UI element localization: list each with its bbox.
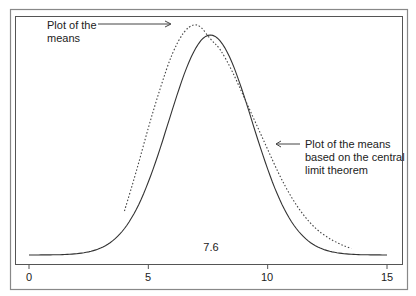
x-tick-5: 5	[145, 271, 151, 283]
x-tick-10: 10	[261, 271, 273, 283]
means-label-line2: means	[47, 32, 80, 44]
means-curve	[124, 25, 351, 249]
center-value-label: 7.6	[203, 241, 218, 253]
x-tick-0: 0	[26, 271, 32, 283]
x-axis-ticks	[29, 265, 387, 270]
clt-label-line2: based on the central	[305, 151, 405, 163]
clt-label-line3: limit theorem	[305, 164, 368, 176]
clt-label-line1: Plot of the means	[305, 138, 391, 150]
means-label-line1: Plot of the	[47, 19, 97, 31]
x-tick-15: 15	[381, 271, 393, 283]
